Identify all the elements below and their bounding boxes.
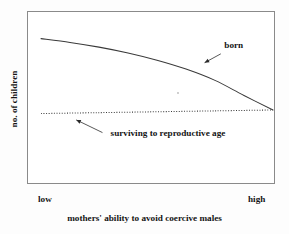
y-axis-label: no. of children [9,71,19,128]
speck-artifact [177,92,179,94]
chart-figure: born surviving to reproductive age low h… [0,0,289,234]
x-tick-label-low: low [38,194,52,204]
x-axis-label: mothers' ability to avoid coercive males [67,213,222,223]
annotation-label-surviving: surviving to reproductive age [111,128,226,138]
chart-canvas: born surviving to reproductive age low h… [0,0,289,234]
x-tick-label-high: high [248,194,265,204]
annotation-label-born: born [224,40,243,50]
plot-frame [28,12,275,184]
